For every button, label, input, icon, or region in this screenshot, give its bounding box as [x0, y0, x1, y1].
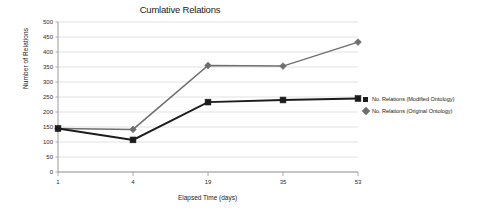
gridlines: [58, 22, 358, 172]
x-tick-label: 19: [205, 179, 212, 185]
y-tick-label: 0: [50, 169, 54, 175]
y-tick-label: 250: [43, 94, 54, 100]
x-axis-tick-labels: 14193553: [56, 179, 362, 185]
y-tick-label: 200: [43, 109, 54, 115]
y-tick-label: 150: [43, 124, 54, 130]
y-tick-label: 500: [43, 19, 54, 25]
data-point: [280, 97, 286, 103]
x-tick-label: 35: [280, 179, 287, 185]
legend-label-modified: No. Relations (Modified Ontology): [372, 96, 454, 102]
diamond-marker-icon: [360, 106, 372, 116]
chart-container: Cumlative Relations Number of Relations …: [0, 0, 487, 214]
y-axis-tick-labels: 050100150200250300350400450500: [43, 19, 54, 175]
y-tick-label: 450: [43, 34, 54, 40]
data-point: [205, 99, 211, 105]
x-tick-label: 1: [56, 179, 60, 185]
legend-item-modified: No. Relations (Modified Ontology): [360, 93, 487, 105]
y-tick-label: 350: [43, 64, 54, 70]
square-marker-icon: [360, 94, 372, 104]
y-tick-label: 50: [46, 154, 53, 160]
chart-legend: No. Relations (Modified Ontology) No. Re…: [360, 93, 487, 117]
data-point: [55, 126, 61, 132]
series-original: [55, 39, 362, 133]
x-tick-label: 53: [355, 179, 362, 185]
y-tick-label: 400: [43, 49, 54, 55]
legend-item-original: No. Relations (Original Ontology): [360, 105, 487, 117]
data-point: [355, 39, 362, 46]
y-tick-label: 300: [43, 79, 54, 85]
y-tick-label: 100: [43, 139, 54, 145]
data-point: [280, 63, 287, 70]
legend-label-original: No. Relations (Original Ontology): [372, 108, 452, 114]
series-modified: [55, 96, 361, 143]
x-tick-label: 4: [131, 179, 135, 185]
data-point: [130, 137, 136, 143]
